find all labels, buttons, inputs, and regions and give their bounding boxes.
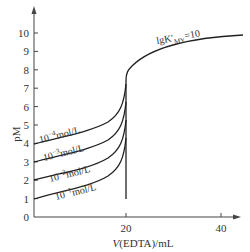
y-tick-7: 7 (24, 82, 30, 94)
y-tick-labels: 0 1 2 3 4 5 6 7 8 9 10 (18, 27, 30, 223)
curve-excess-edta (126, 35, 243, 199)
y-axis-label: pM (10, 126, 22, 142)
y-axis (32, 6, 39, 217)
label-1e-4: 10−4mol/L (38, 123, 82, 145)
y-axis-arrow-icon (32, 6, 37, 14)
x-axis-arrow-icon (233, 215, 241, 220)
y-tick-3: 3 (24, 156, 30, 168)
series-labels: 10−4mol/L 10−3mol/L 10−2mol/L 10−1mol/L … (38, 27, 202, 201)
label-1e-2: 10−2mol/L (48, 162, 92, 184)
annotation-lgk: lgK′MY=10 (155, 27, 201, 48)
y-tick-10: 10 (18, 27, 30, 39)
y-tick-8: 8 (24, 64, 30, 76)
y-tick-0: 0 (24, 211, 30, 223)
y-tick-2: 2 (24, 174, 30, 186)
titration-chart: 0 1 2 3 4 5 6 7 8 9 10 pM 20 40 V(EDTA)/… (0, 0, 250, 252)
y-tick-4: 4 (24, 137, 30, 149)
x-axis-label: V(EDTA)/mL (113, 237, 174, 250)
y-tick-9: 9 (24, 45, 30, 57)
x-tick-40: 40 (216, 222, 228, 234)
y-tick-1: 1 (24, 193, 30, 205)
x-tick-20: 20 (121, 222, 133, 234)
y-tick-6: 6 (24, 101, 30, 113)
label-1e-3: 10−3mol/L (42, 141, 86, 163)
x-axis (34, 213, 241, 220)
label-1e-1: 10−1mol/L (54, 180, 98, 202)
y-tick-5: 5 (24, 119, 30, 131)
